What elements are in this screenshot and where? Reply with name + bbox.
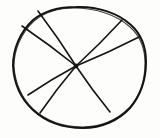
center-hub-group (74, 64, 79, 69)
figure-root: Hand-drawn circle divided into sectors (0, 0, 160, 138)
figure-background (0, 0, 160, 138)
center-hub-dot (74, 64, 79, 69)
sectored-circle-diagram (0, 0, 160, 138)
